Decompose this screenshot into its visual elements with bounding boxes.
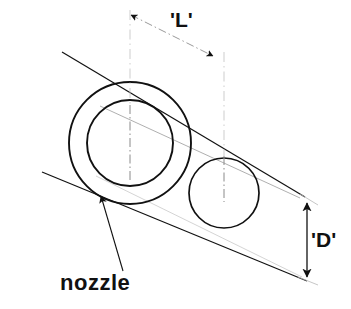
band-lower-edge	[42, 172, 307, 281]
diameter-extension-line-top	[300, 194, 318, 205]
diameter-extension-line-bottom	[298, 277, 318, 285]
diagram-canvas	[0, 0, 351, 309]
nozzle-leader-line	[101, 196, 123, 271]
diameter-dimension-label: 'D'	[311, 228, 336, 252]
band-inner-upper-construction-line	[100, 106, 300, 198]
nozzle-label: nozzle	[60, 270, 130, 296]
band-upper-edge	[62, 52, 305, 197]
band-inner-lower-construction-line	[96, 176, 302, 277]
length-dimension-label: 'L'	[170, 8, 193, 32]
nozzle-diagram: 'L' 'D' nozzle	[0, 0, 351, 309]
